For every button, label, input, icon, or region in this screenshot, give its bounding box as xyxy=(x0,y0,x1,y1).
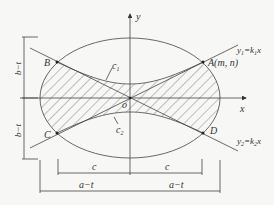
diagram-canvas: y x o A(m, n) B C D c1 c2 y1=k1x y2=k2x … xyxy=(0,0,274,205)
origin-point xyxy=(129,97,132,100)
dim-label-left-bottom: b−t xyxy=(13,123,23,137)
dim-label-a-right: a−t xyxy=(169,179,184,190)
dim-label-left-top: b−t xyxy=(13,61,23,75)
point-c-label: C xyxy=(44,129,51,140)
dim-label-c-right: c xyxy=(165,161,170,172)
curve-c2-label: c2 xyxy=(116,124,123,136)
line-y1-equation: y1=k1x xyxy=(236,45,261,56)
y-axis-label: y xyxy=(135,11,141,22)
curve-c1-label: c1 xyxy=(112,60,119,72)
point-c xyxy=(56,132,59,135)
line-y2-equation: y2=k2x xyxy=(236,136,261,147)
point-b-label: B xyxy=(44,57,50,68)
point-d-label: D xyxy=(209,125,218,136)
dim-label-a-left: a−t xyxy=(79,179,94,190)
point-a xyxy=(202,61,205,64)
dim-label-c-left: c xyxy=(92,161,97,172)
point-a-label: A(m, n) xyxy=(207,57,239,69)
point-d xyxy=(202,132,205,135)
c2-leader xyxy=(114,117,118,124)
point-b xyxy=(56,61,59,64)
x-axis-label: x xyxy=(239,103,245,114)
origin-label: o xyxy=(122,99,127,110)
